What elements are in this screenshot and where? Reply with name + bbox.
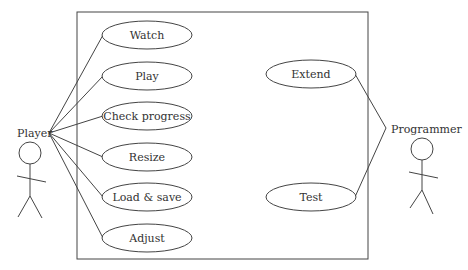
association-player-resize bbox=[49, 133, 103, 157]
use-case-extend: Extend bbox=[266, 60, 356, 88]
actor-programmer-label: Programmer bbox=[391, 123, 463, 136]
use-case-load-save: Load & save bbox=[102, 183, 192, 211]
association-player-adjust bbox=[49, 133, 103, 238]
use-case-label: Extend bbox=[291, 68, 330, 81]
use-case-adjust: Adjust bbox=[102, 224, 192, 252]
actor-programmer: Programmer bbox=[391, 123, 463, 214]
association-player-load-save bbox=[49, 133, 103, 197]
use-case-label: Play bbox=[135, 70, 159, 83]
association-programmer-test bbox=[355, 128, 386, 197]
use-case-label: Resize bbox=[129, 151, 165, 164]
use-case-label: Check progress bbox=[103, 110, 191, 123]
use-case-label: Test bbox=[299, 191, 323, 204]
association-programmer-extend bbox=[355, 74, 386, 128]
use-case-test: Test bbox=[266, 183, 356, 211]
use-case-watch: Watch bbox=[102, 21, 192, 49]
actor-player: Player bbox=[17, 127, 53, 218]
use-case-check-progress: Check progress bbox=[102, 102, 192, 130]
use-case-diagram: WatchPlayCheck progressResizeLoad & save… bbox=[0, 0, 468, 270]
use-case-label: Load & save bbox=[112, 191, 181, 204]
use-case-play: Play bbox=[102, 62, 192, 90]
actor-player-label: Player bbox=[17, 127, 53, 140]
use-case-label: Adjust bbox=[128, 232, 165, 245]
use-case-label: Watch bbox=[130, 29, 165, 42]
use-case-resize: Resize bbox=[102, 143, 192, 171]
system-boundary bbox=[77, 12, 368, 259]
